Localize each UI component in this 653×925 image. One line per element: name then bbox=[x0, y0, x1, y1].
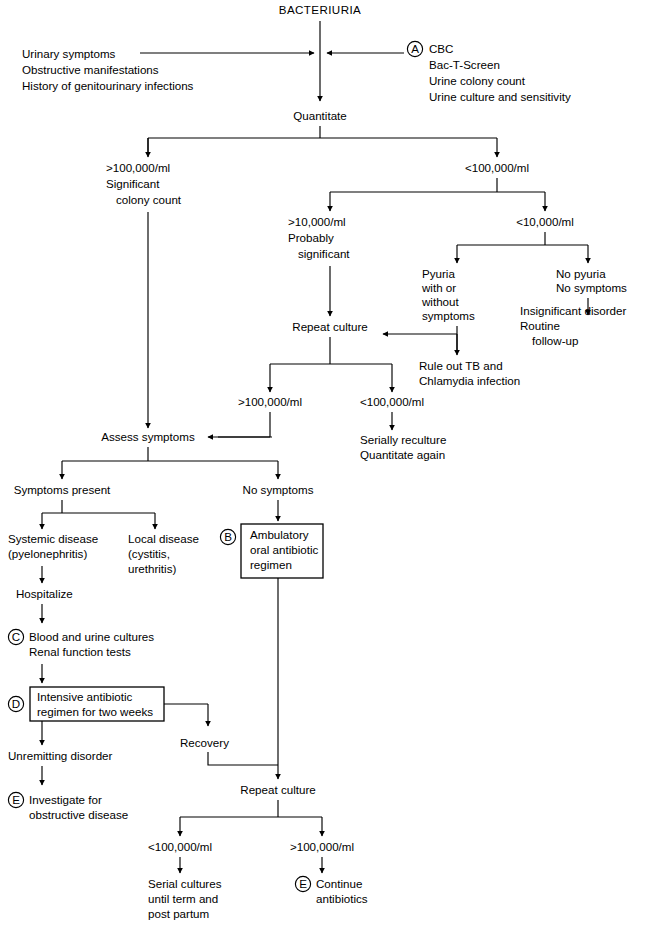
node-mid-count-line2: Probably bbox=[288, 231, 334, 244]
node-low-count: <100,000/ml bbox=[465, 161, 529, 174]
node-intensive-line2: regimen for two weeks bbox=[37, 705, 153, 718]
node-pyuria-line2: with or bbox=[421, 281, 456, 294]
node-investigate-line1: Investigate for bbox=[29, 793, 102, 806]
diagram-title: BACTERIURIA bbox=[279, 3, 361, 16]
right-input-1: CBC bbox=[429, 42, 453, 55]
edge-quantitate-split bbox=[148, 126, 497, 152]
node-symptoms-present: Symptoms present bbox=[14, 483, 111, 496]
left-input-1: Urinary symptoms bbox=[22, 47, 116, 60]
node-recovery: Recovery bbox=[180, 736, 229, 749]
bacteriuria-algorithm-flowchart: BACTERIURIA Urinary symptoms Obstructive… bbox=[0, 0, 653, 925]
node-final-low: <100,000/ml bbox=[148, 840, 212, 853]
node-serially-line1: Serially reculture bbox=[360, 433, 446, 446]
node-mid-count-line1: >10,000/ml bbox=[288, 215, 346, 228]
edge-repeat-culture-2-split bbox=[180, 800, 322, 817]
right-input-2: Bac-T-Screen bbox=[429, 58, 500, 71]
left-input-2: Obstructive manifestations bbox=[22, 63, 159, 76]
key-letter-a: A bbox=[411, 42, 419, 55]
node-pyuria-line3: without bbox=[421, 295, 460, 308]
node-cultures-line1: Blood and urine cultures bbox=[29, 630, 154, 643]
node-unremitting: Unremitting disorder bbox=[8, 749, 113, 762]
node-serially-line2: Quantitate again bbox=[360, 448, 445, 461]
node-continue-line1: Continue bbox=[316, 877, 362, 890]
node-insignificant-line2: Routine bbox=[520, 319, 560, 332]
right-input-3: Urine colony count bbox=[429, 74, 526, 87]
node-hospitalize: Hospitalize bbox=[16, 587, 73, 600]
node-rule-out-line1: Rule out TB and bbox=[419, 359, 503, 372]
node-local-line2: (cystitis, bbox=[128, 547, 170, 560]
node-repeat-culture-2: Repeat culture bbox=[240, 783, 315, 796]
node-local-line3: urethritis) bbox=[128, 562, 176, 575]
node-no-pyuria-line1: No pyuria bbox=[556, 267, 606, 280]
node-high-count-line3: colony count bbox=[116, 193, 182, 206]
node-high-count-line2: Significant bbox=[106, 177, 160, 190]
edge-symptoms-present-split bbox=[42, 500, 155, 513]
node-ambulatory-line2: oral antibiotic bbox=[250, 543, 319, 556]
node-ambulatory-line1: Ambulatory bbox=[250, 528, 309, 541]
node-repeat-culture-1: Repeat culture bbox=[292, 320, 367, 333]
node-investigate-line2: obstructive disease bbox=[29, 808, 128, 821]
node-pyuria-line1: Pyuria bbox=[422, 267, 455, 280]
node-high-count-line1: >100,000/ml bbox=[106, 161, 170, 174]
node-systemic-line1: Systemic disease bbox=[8, 532, 98, 545]
right-input-4: Urine culture and sensitivity bbox=[429, 90, 571, 103]
node-assess-symptoms: Assess symptoms bbox=[101, 430, 195, 443]
node-serial-line3: post partum bbox=[148, 907, 209, 920]
flowchart-container: BACTERIURIA Urinary symptoms Obstructive… bbox=[0, 0, 653, 925]
node-very-low-count: <10,000/ml bbox=[516, 215, 574, 228]
key-letter-d: D bbox=[12, 697, 20, 710]
node-insignificant-line3: follow-up bbox=[532, 334, 578, 347]
edge-recovery-to-repeat-culture-2 bbox=[208, 752, 278, 765]
key-letter-c: C bbox=[12, 630, 20, 643]
node-no-pyuria-line2: No symptoms bbox=[556, 281, 627, 294]
node-continue-line2: antibiotics bbox=[316, 892, 368, 905]
left-input-3: History of genitourinary infections bbox=[22, 79, 194, 92]
node-intensive-line1: Intensive antibiotic bbox=[37, 690, 133, 703]
node-pyuria-line4: symptoms bbox=[422, 309, 475, 322]
key-letter-b: B bbox=[224, 530, 232, 543]
node-rc-high: >100,000/ml bbox=[238, 395, 302, 408]
node-cultures-line2: Renal function tests bbox=[29, 645, 131, 658]
node-rule-out-line2: Chlamydia infection bbox=[419, 374, 520, 387]
edge-verylow-split bbox=[457, 232, 588, 245]
key-letter-e-investigate: E bbox=[12, 793, 20, 806]
node-local-line1: Local disease bbox=[128, 532, 199, 545]
node-rc-low: <100,000/ml bbox=[360, 395, 424, 408]
edge-low-count-split bbox=[330, 178, 545, 192]
node-serial-line1: Serial cultures bbox=[148, 877, 222, 890]
node-quantitate: Quantitate bbox=[293, 109, 347, 122]
edge-rc-high-elbow bbox=[218, 412, 270, 437]
edge-repeat-culture-split bbox=[270, 337, 392, 364]
node-serial-line2: until term and bbox=[148, 892, 218, 905]
edge-assess-split bbox=[62, 447, 278, 461]
node-final-high: >100,000/ml bbox=[290, 840, 354, 853]
node-mid-count-line3: significant bbox=[298, 247, 350, 260]
node-systemic-line2: (pyelonephritis) bbox=[8, 547, 87, 560]
node-no-symptoms: No symptoms bbox=[243, 483, 314, 496]
node-ambulatory-line3: regimen bbox=[250, 558, 292, 571]
key-letter-e-continue: E bbox=[299, 877, 307, 890]
node-insignificant-line1: Insignificant disorder bbox=[520, 304, 626, 317]
